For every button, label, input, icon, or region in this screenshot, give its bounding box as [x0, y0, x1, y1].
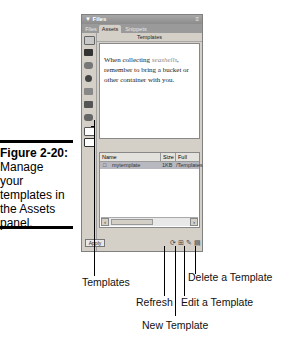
scroll-right-icon[interactable]: › [190, 218, 198, 226]
column-name[interactable]: Name [100, 153, 162, 161]
apply-button[interactable]: Apply [85, 239, 105, 247]
urls-icon[interactable] [84, 62, 93, 69]
callout-line-new-template [175, 246, 176, 316]
tab-assets[interactable]: Assets [99, 25, 121, 33]
tab-snippets[interactable]: Snippets [124, 25, 148, 33]
files-panel: ▼ Files ≡ Files Assets Snippets Template… [81, 14, 203, 252]
scroll-thumb[interactable] [111, 219, 153, 225]
figure-number: Figure 2-20: [0, 146, 74, 160]
category-title: Templates [97, 33, 202, 42]
template-file-icon: □ [103, 162, 106, 169]
caption-bottom-rule [0, 226, 73, 229]
list-header: Name Size Full Path [100, 153, 199, 162]
callout-templates: Templates [82, 276, 130, 288]
callout-line-edit-template [184, 246, 185, 296]
callout-tick-templates [91, 126, 95, 127]
caption-top-rule [0, 140, 73, 143]
callout-refresh: Refresh [136, 296, 173, 308]
table-row[interactable]: □ mytemplate 1KB /Templates [100, 162, 199, 169]
callout-delete-template: Delete a Template [188, 271, 272, 283]
template-preview: When collecting seashells, remember to b… [99, 43, 200, 139]
callout-edit-template: Edit a Template [181, 296, 253, 308]
flash-icon[interactable] [85, 75, 92, 82]
images-icon[interactable] [84, 36, 95, 45]
panel-titlebar[interactable]: ▼ Files ≡ [82, 15, 202, 24]
column-size[interactable]: Size [160, 153, 176, 161]
callout-new-template: New Template [142, 319, 208, 331]
colors-icon[interactable] [84, 49, 93, 56]
callout-line-delete-template [195, 246, 196, 274]
template-path: /Templates [176, 162, 203, 169]
panel-title: ▼ Files [85, 16, 106, 22]
template-size: 1KB [162, 162, 172, 169]
caption-line: the Assets [0, 202, 55, 216]
horizontal-scrollbar[interactable]: ‹ › [101, 217, 198, 226]
template-name: mytemplate [112, 162, 140, 169]
shockwave-icon[interactable] [84, 88, 93, 95]
callout-line-refresh [164, 246, 165, 296]
caption-line: Manage [0, 160, 43, 174]
template-list: Name Size Full Path □ mytemplate 1KB /Te… [99, 152, 200, 228]
caption-line: templates in [0, 188, 65, 202]
callout-line-templates [94, 120, 95, 276]
figure-caption: Figure 2-20: Manage your templates in th… [0, 146, 74, 230]
preview-emphasis: seashells [152, 56, 177, 64]
caption-line: your [0, 174, 23, 188]
tab-files[interactable]: Files [84, 25, 98, 33]
scripts-icon[interactable] [84, 114, 93, 121]
movies-icon[interactable] [84, 101, 93, 108]
preview-text: When collecting [104, 56, 152, 64]
assets-content: Templates When collecting seashells, rem… [97, 33, 202, 251]
scroll-left-icon[interactable]: ‹ [101, 218, 109, 226]
panel-tabs: Files Assets Snippets [82, 24, 202, 33]
edit-template-icon[interactable]: ✎ [186, 240, 192, 246]
options-menu-icon[interactable]: ≡ [195, 15, 199, 24]
